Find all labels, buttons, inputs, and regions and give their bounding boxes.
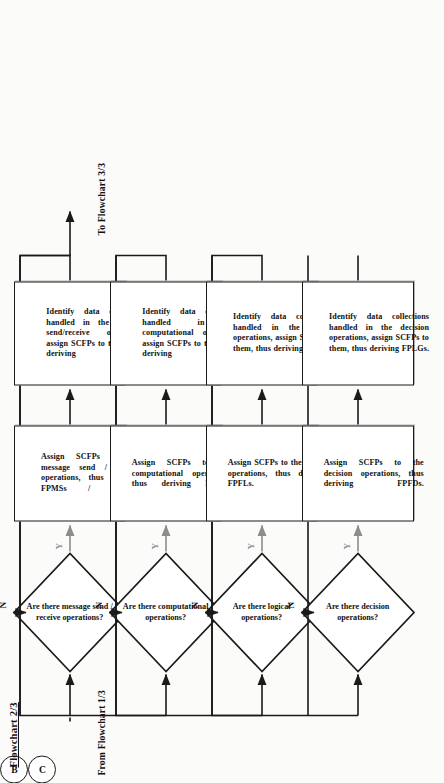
- flowchart-stage: [0, 0, 444, 783]
